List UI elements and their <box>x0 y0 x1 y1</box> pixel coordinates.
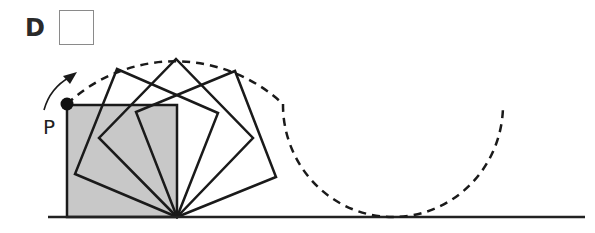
locus-arc-2 <box>283 104 503 217</box>
arrowhead-icon <box>63 72 77 84</box>
rolling-square-diagram: P <box>0 0 595 233</box>
point-p-label: P <box>43 115 55 139</box>
locus-arc-1 <box>67 61 283 104</box>
point-p <box>61 98 74 111</box>
